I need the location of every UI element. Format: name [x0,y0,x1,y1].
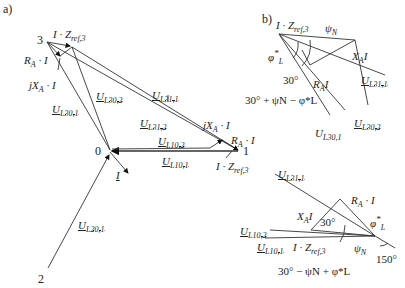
b-bot-angle30: 30° [320,217,335,228]
b-bot-XA-I: XAI [297,211,312,226]
label-UL10-2: UL10,2 [158,136,184,151]
label-current-I: I [116,170,120,181]
b-bot-angle150: 150° [376,254,397,265]
b-top-XA-I: XAI [352,51,367,66]
b-bot-IZref3: I · Zref,3 [293,242,326,257]
phasor-UL20-1 [48,155,109,268]
b-top-UL30-2: UL30,2 [354,118,380,133]
b-bot-UL31-1: UL31,1 [278,169,304,184]
label-UL30-1: UL30,1 [52,104,78,119]
label-jXA-I-right: jXA · I [203,120,230,135]
label-IZref3-top: I · Zref,3 [53,29,86,44]
b-top-psiN: ψN [325,23,337,38]
b-bot-expr: 30° − ψN + φ*L [278,266,350,277]
label-RA-I: RA · I [24,55,48,70]
label-UL10-1: UL10,1 [162,156,188,171]
b-bot-UL10-1: UL10,1 [257,242,283,257]
label-RA-I-right: RA · I [231,135,255,150]
label-jXA-I: jXA · I [29,80,56,95]
b-top-RA-I: RAI [313,79,328,94]
b-bot-psiN: ψN [354,243,366,258]
label-UL31-1: UL31,1 [152,90,178,105]
b-top-expr: 30° + ψN − φ*L [245,95,317,106]
b-bot-RA-I: RA · I [351,195,375,210]
b-bot-phiL: φ*L [370,214,385,233]
label-UL31-2: UL31,2 [140,118,166,133]
node-0: 0 [95,146,101,157]
label-UL20-1: UL20,1 [78,220,104,235]
b-top-UL30-1: UL30,1 [315,128,341,143]
panel-a-label: a) [3,4,12,15]
node-3: 3 [37,35,43,46]
b-top-IZref3: I · Zref,3 [276,20,309,35]
panel-b-label: b) [262,14,272,25]
b-top-angle30: 30° [283,75,298,86]
label-UL30-2: UL30,2 [96,91,122,106]
b-top-UL31-1: UL31,1 [361,75,387,90]
label-IZref3-right: I · Zref,3 [216,161,249,176]
b-top-phiL: φ*L [268,48,283,67]
node-2: 2 [38,274,44,285]
b-bot-UL10-2: UL10,2 [240,226,266,241]
